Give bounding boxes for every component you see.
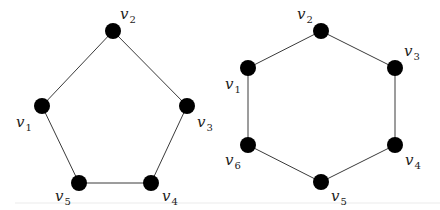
pentagon-label-v5: v5	[55, 187, 71, 207]
pentagon-vertex-v3	[179, 98, 195, 114]
hexagon-vertex-v5	[313, 174, 329, 190]
hexagon-label-v3: v3	[404, 42, 420, 62]
hexagon-vertex-v4	[387, 137, 403, 153]
pentagon-edge-v5-v1	[42, 106, 79, 183]
graph-diagram-canvas: v1v2v3v4v5 v1v2v3v4v5v6	[0, 0, 440, 210]
pentagon-edge-v1-v2	[42, 31, 113, 106]
pentagon-edge-v3-v4	[151, 106, 187, 183]
hexagon-vertex-v1	[240, 60, 256, 76]
pentagon-label-v1: v1	[16, 113, 32, 133]
hexagon-label-v6: v6	[225, 151, 241, 171]
hexagon-edge-v4-v5	[321, 145, 395, 182]
hexagon-vertex-v3	[387, 60, 403, 76]
hexagon-edge-v5-v6	[248, 145, 321, 182]
hexagon-label-v4: v4	[405, 151, 421, 171]
hexagon-label-v2: v2	[297, 5, 313, 25]
hexagon-vertex-v2	[313, 23, 329, 39]
pentagon-label-v2: v2	[120, 5, 136, 25]
pentagon-vertex-v1	[34, 98, 50, 114]
pentagon-label-v3: v3	[197, 113, 213, 133]
pentagon-edge-v2-v3	[113, 31, 187, 106]
pentagon-vertices	[34, 23, 195, 191]
hexagon-label-v5: v5	[331, 187, 347, 207]
pentagon-vertex-v2	[105, 23, 121, 39]
pentagon-vertex-v4	[143, 175, 159, 191]
hexagon-edge-v2-v3	[321, 31, 395, 68]
hexagon-graph: v1v2v3v4v5v6	[225, 5, 421, 207]
pentagon-label-v4: v4	[162, 187, 178, 207]
pentagon-vertex-v5	[71, 175, 87, 191]
hexagon-edge-v1-v2	[248, 31, 321, 68]
pentagon-edges	[42, 31, 187, 183]
pentagon-graph: v1v2v3v4v5	[16, 5, 213, 207]
hexagon-vertex-v6	[240, 137, 256, 153]
hexagon-edges	[248, 31, 395, 182]
hexagon-label-v1: v1	[225, 75, 241, 95]
hexagon-vertices	[240, 23, 403, 190]
